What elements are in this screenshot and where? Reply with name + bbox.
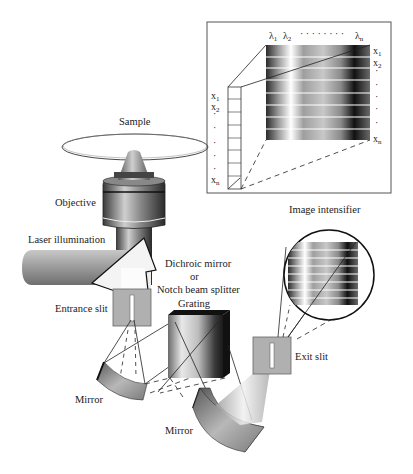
svg-text:·: ·: [213, 108, 216, 119]
pixel-column: [228, 87, 241, 189]
image-intensifier: Image intensifier: [284, 204, 374, 337]
svg-text:·: ·: [375, 65, 378, 76]
svg-text:·: ·: [213, 137, 216, 148]
svg-text:·: ·: [213, 122, 216, 133]
dichroic-label-line1: Dichroic mirror: [165, 258, 232, 269]
laser-illumination-label: Laser illumination: [28, 234, 106, 245]
spectral-imaging-diagram: λ1 λ2 · · · · · · · · λn x1 x2 · · · · ·…: [0, 0, 413, 474]
dichroic-label-line3: Notch beam splitter: [157, 284, 240, 295]
left-dots: · · · · ·: [213, 108, 216, 174]
objective-label: Objective: [55, 197, 96, 208]
svg-text:·: ·: [213, 163, 216, 174]
svg-text:·: ·: [213, 150, 216, 161]
entrance-slit-label: Entrance slit: [55, 303, 108, 314]
exit-slit-label: Exit slit: [295, 351, 328, 362]
spectrum-image: [266, 45, 370, 140]
mirror-1-label: Mirror: [75, 394, 103, 405]
sample-label: Sample: [119, 116, 151, 127]
right-dots: · · · · ·: [375, 65, 378, 128]
lambda-dots: · · · · · · · ·: [300, 28, 344, 39]
dichroic-label-line2: or: [190, 271, 199, 282]
entrance-slit: Entrance slit: [55, 289, 151, 326]
mirror-2-label: Mirror: [165, 425, 193, 436]
svg-text:·: ·: [375, 117, 378, 128]
spectral-inset: λ1 λ2 · · · · · · · · λn x1 x2 · · · · ·…: [207, 22, 391, 193]
svg-text:·: ·: [375, 91, 378, 102]
svg-text:·: ·: [375, 103, 378, 114]
grating-label: Grating: [178, 298, 211, 309]
svg-text:·: ·: [375, 79, 378, 90]
mirror-1: Mirror: [75, 362, 147, 405]
image-intensifier-label: Image intensifier: [289, 204, 361, 215]
